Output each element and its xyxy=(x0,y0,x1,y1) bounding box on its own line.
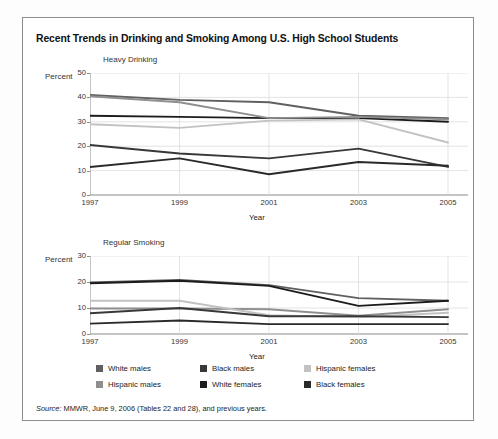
plot-area-heavy-drinking xyxy=(90,73,448,195)
y-tick-mark xyxy=(87,308,90,309)
y-tick-label: 10 xyxy=(64,303,86,312)
source-text: MMWR, June 9, 2006 (Tables 22 and 28), a… xyxy=(61,404,266,413)
legend: White malesHispanic malesBlack malesWhit… xyxy=(96,364,426,398)
legend-item: Hispanic males xyxy=(96,380,161,389)
legend-swatch-icon xyxy=(200,381,207,388)
plot-area-regular-smoking xyxy=(90,256,448,334)
x-tick-label: 2003 xyxy=(339,198,379,207)
legend-swatch-icon xyxy=(200,365,207,372)
legend-label: Hispanic males xyxy=(108,380,161,389)
y-tick-mark xyxy=(87,97,90,98)
y-tick-label: 30 xyxy=(64,117,86,126)
x-tick-label: 2001 xyxy=(249,337,289,346)
legend-item: Black females xyxy=(304,380,365,389)
legend-item: White males xyxy=(96,364,151,373)
chart-svg xyxy=(90,73,472,199)
legend-label: White females xyxy=(212,380,261,389)
legend-item: White females xyxy=(200,380,261,389)
legend-label: Black males xyxy=(212,364,254,373)
y-tick-mark xyxy=(87,171,90,172)
y-tick-label: 10 xyxy=(64,166,86,175)
y-tick-label: 20 xyxy=(64,277,86,286)
x-tick-label: 2001 xyxy=(249,198,289,207)
x-tick-label: 1997 xyxy=(70,198,110,207)
legend-label: Hispanic females xyxy=(316,364,375,373)
y-tick-mark xyxy=(87,256,90,257)
y-tick-label: 40 xyxy=(64,92,86,101)
chart-svg xyxy=(90,256,472,338)
source-prefix: Source: xyxy=(36,404,61,413)
panel-heavy-drinking: Heavy Drinking Percent Year 010203040501… xyxy=(40,55,470,220)
x-axis-label-heavy-drinking: Year xyxy=(249,213,265,222)
legend-swatch-icon xyxy=(96,365,103,372)
legend-label: Black females xyxy=(316,380,365,389)
x-axis-label-regular-smoking: Year xyxy=(249,352,265,361)
y-tick-mark xyxy=(87,146,90,147)
x-tick-label: 1997 xyxy=(70,337,110,346)
legend-swatch-icon xyxy=(304,365,311,372)
source-note: Source: MMWR, June 9, 2006 (Tables 22 an… xyxy=(36,404,267,413)
x-tick-label: 2005 xyxy=(428,198,468,207)
legend-item: Hispanic females xyxy=(304,364,375,373)
y-tick-mark xyxy=(87,195,90,196)
legend-swatch-icon xyxy=(96,381,103,388)
figure-title: Recent Trends in Drinking and Smoking Am… xyxy=(36,33,398,44)
y-tick-label: 30 xyxy=(64,251,86,260)
panel-title-regular-smoking: Regular Smoking xyxy=(103,238,164,247)
x-tick-label: 1999 xyxy=(160,198,200,207)
legend-label: White males xyxy=(108,364,151,373)
y-tick-label: 20 xyxy=(64,141,86,150)
y-tick-mark xyxy=(87,334,90,335)
legend-item: Black males xyxy=(200,364,254,373)
y-tick-mark xyxy=(87,73,90,74)
panel-regular-smoking: Regular Smoking Percent Year 01020301997… xyxy=(40,238,470,358)
legend-swatch-icon xyxy=(304,381,311,388)
y-tick-mark xyxy=(87,122,90,123)
x-tick-label: 2005 xyxy=(428,337,468,346)
figure-page: Recent Trends in Drinking and Smoking Am… xyxy=(0,0,498,439)
panel-title-heavy-drinking: Heavy Drinking xyxy=(103,55,157,64)
x-tick-label: 1999 xyxy=(160,337,200,346)
x-tick-label: 2003 xyxy=(339,337,379,346)
y-tick-mark xyxy=(87,282,90,283)
y-tick-label: 50 xyxy=(64,68,86,77)
